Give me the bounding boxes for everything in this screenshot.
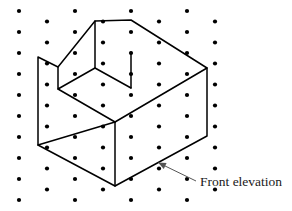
grid-dot xyxy=(129,93,133,97)
grid-dot xyxy=(101,187,105,191)
grid-dot xyxy=(157,103,161,107)
grid-dot xyxy=(45,187,49,191)
grid-dot xyxy=(185,156,189,160)
grid-dot xyxy=(73,135,77,139)
grid-dot xyxy=(73,9,77,13)
grid-dot xyxy=(213,103,217,107)
front-elevation-label: Front elevation xyxy=(200,174,282,189)
grid-dot xyxy=(45,82,49,86)
grid-dot xyxy=(45,19,49,23)
grid-dot xyxy=(45,40,49,44)
grid-dot xyxy=(73,51,77,55)
grid-dot xyxy=(185,9,189,13)
grid-dot xyxy=(17,177,21,181)
grid-dot xyxy=(213,82,217,86)
grid-dot xyxy=(157,145,161,149)
grid-dot xyxy=(73,72,77,76)
grid-dot xyxy=(185,114,189,118)
grid-dot xyxy=(45,166,49,170)
figure-canvas: Front elevation xyxy=(0,0,292,211)
grid-dot xyxy=(129,198,133,202)
grid-dot xyxy=(17,51,21,55)
grid-dot xyxy=(73,198,77,202)
grid-dot xyxy=(185,93,189,97)
grid-dot xyxy=(73,93,77,97)
isometric-drawing-figure: Front elevation xyxy=(0,0,292,211)
grid-dot xyxy=(157,166,161,170)
grid-dot xyxy=(213,145,217,149)
grid-dot xyxy=(101,166,105,170)
grid-dot xyxy=(157,124,161,128)
grid-dot xyxy=(157,19,161,23)
grid-dot xyxy=(129,9,133,13)
grid-dot xyxy=(101,103,105,107)
grid-dot xyxy=(185,72,189,76)
grid-dot xyxy=(213,40,217,44)
grid-dot xyxy=(129,114,133,118)
grid-dot xyxy=(185,198,189,202)
grid-dot xyxy=(101,61,105,65)
grid-dot xyxy=(17,135,21,139)
grid-dot xyxy=(17,9,21,13)
grid-dot xyxy=(185,30,189,34)
grid-dot xyxy=(17,114,21,118)
grid-dot xyxy=(45,103,49,107)
grid-dot xyxy=(17,156,21,160)
grid-dot xyxy=(101,40,105,44)
grid-dot xyxy=(73,156,77,160)
grid-dot xyxy=(45,124,49,128)
grid-dot xyxy=(73,177,77,181)
grid-dot xyxy=(73,114,77,118)
grid-dot xyxy=(157,40,161,44)
grid-dot xyxy=(157,61,161,65)
grid-dot xyxy=(213,61,217,65)
grid-dot xyxy=(17,198,21,202)
grid-dot xyxy=(157,82,161,86)
grid-dot xyxy=(17,30,21,34)
grid-dot xyxy=(129,135,133,139)
grid-dot xyxy=(213,166,217,170)
grid-dot xyxy=(185,135,189,139)
grid-dot xyxy=(101,145,105,149)
grid-dot xyxy=(129,156,133,160)
grid-dot xyxy=(213,19,217,23)
grid-dot xyxy=(157,187,161,191)
grid-dot xyxy=(213,124,217,128)
grid-dot xyxy=(17,72,21,76)
grid-dot xyxy=(129,30,133,34)
grid-dot xyxy=(17,93,21,97)
grid-dot xyxy=(73,30,77,34)
grid-dot xyxy=(101,82,105,86)
